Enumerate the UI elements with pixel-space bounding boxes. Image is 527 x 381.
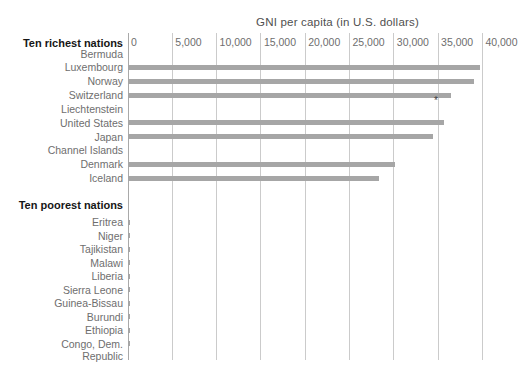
country-label: Denmark (80, 158, 123, 170)
axis-tick-label: 10,000 (220, 36, 252, 48)
country-label: Liberia (91, 270, 123, 282)
country-label: Sierra Leone (63, 284, 123, 296)
country-label: Guinea-Bissau (54, 297, 123, 309)
country-label: Niger (98, 230, 123, 242)
gni-value-bar (128, 314, 130, 319)
country-label: Norway (87, 75, 123, 87)
gni-value-bar (128, 120, 444, 125)
country-label: Luxembourg (65, 61, 123, 73)
country-label: Malawi (90, 257, 123, 269)
axis-tick-label: 25,000 (353, 36, 385, 48)
gni-value-bar (128, 287, 130, 292)
gni-value-bar (128, 247, 130, 252)
country-label: Ethiopia (85, 324, 123, 336)
gni-bar-chart: GNI per capita (in U.S. dollars) Ten ric… (0, 0, 527, 381)
country-label: Japan (94, 131, 123, 143)
gni-value-bar (128, 65, 480, 70)
gni-value-bar (128, 341, 130, 346)
country-label: Bermuda (80, 48, 123, 60)
country-label: Switzerland (69, 89, 123, 101)
gni-value-bar (128, 220, 130, 225)
gni-value-bar (128, 301, 130, 306)
gni-value-bar (128, 328, 130, 333)
gni-value-bar (128, 260, 130, 265)
country-label: Burundi (87, 311, 123, 323)
country-label: Channel Islands (48, 144, 123, 156)
country-label: Congo, Dem. Republic (61, 338, 123, 362)
country-label: Tajikistan (80, 243, 123, 255)
country-label: United States (60, 117, 123, 129)
gni-value-bar (128, 134, 433, 139)
axis-tick-label: 0 (131, 36, 137, 48)
gni-value-bar (128, 93, 451, 98)
gni-value-bar (128, 176, 379, 181)
gni-value-bar (128, 274, 130, 279)
axis-tick-label: 20,000 (308, 36, 340, 48)
gni-value-bar (128, 162, 395, 167)
axis-tick-label: 5,000 (175, 36, 201, 48)
gridline (482, 33, 483, 360)
axis-tick-label: 15,000 (264, 36, 296, 48)
country-label: Iceland (89, 172, 123, 184)
footnote-asterisk: * (434, 97, 438, 105)
axis-tick-label: 30,000 (397, 36, 429, 48)
gni-value-bar (128, 79, 474, 84)
group-header-poorest: Ten poorest nations (19, 199, 123, 211)
gni-value-bar (128, 233, 130, 238)
axis-tick-label: 40,000 (485, 36, 517, 48)
country-label: Eritrea (92, 216, 123, 228)
axis-tick-label: 35,000 (441, 36, 473, 48)
chart-title: GNI per capita (in U.S. dollars) (148, 16, 527, 28)
country-label: Liechtenstein (61, 103, 123, 115)
